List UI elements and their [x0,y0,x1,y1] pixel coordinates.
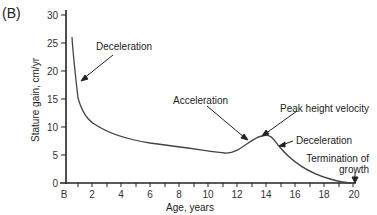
x-axis-title: Age, years [166,202,214,213]
annotation-termination-line1: Termination of [306,153,369,164]
annotation-deceleration-early: Deceleration [96,41,152,52]
x-tick-label: 12 [231,189,243,200]
y-tick-label: 10 [47,122,59,133]
annotation-termination-line2: growth [339,164,369,175]
x-tick-labels: B 2 4 6 8 10 12 14 16 18 20 [61,189,360,200]
y-tick-label: 0 [52,178,58,189]
x-tick-label: 6 [147,189,153,200]
chart: 30 25 20 15 10 5 0 B 2 4 6 8 10 [0,0,377,215]
x-tick-label: 10 [202,189,214,200]
x-tick-label: 8 [176,189,182,200]
x-tick-label: 4 [118,189,124,200]
y-tick-label: 15 [47,94,59,105]
x-tick-label: B [61,189,68,200]
y-tick-label: 30 [47,10,59,21]
y-tick-label: 25 [47,38,59,49]
x-tick-label: 18 [318,189,330,200]
y-tick-label: 5 [52,150,58,161]
x-tick-label: 20 [348,189,360,200]
y-tick-label: 20 [47,66,59,77]
annotation-peak-height-velocity: Peak height velocity [280,103,369,114]
x-tick-label: 16 [289,189,301,200]
y-axis-title: Stature gain, cm/yr [30,57,41,142]
y-ticks: 30 25 20 15 10 5 0 [47,10,66,189]
annotation-deceleration-late: Deceleration [296,135,352,146]
x-tick-label: 2 [89,189,95,200]
x-tick-label: 14 [260,189,272,200]
annotation-acceleration: Acceleration [173,95,228,106]
